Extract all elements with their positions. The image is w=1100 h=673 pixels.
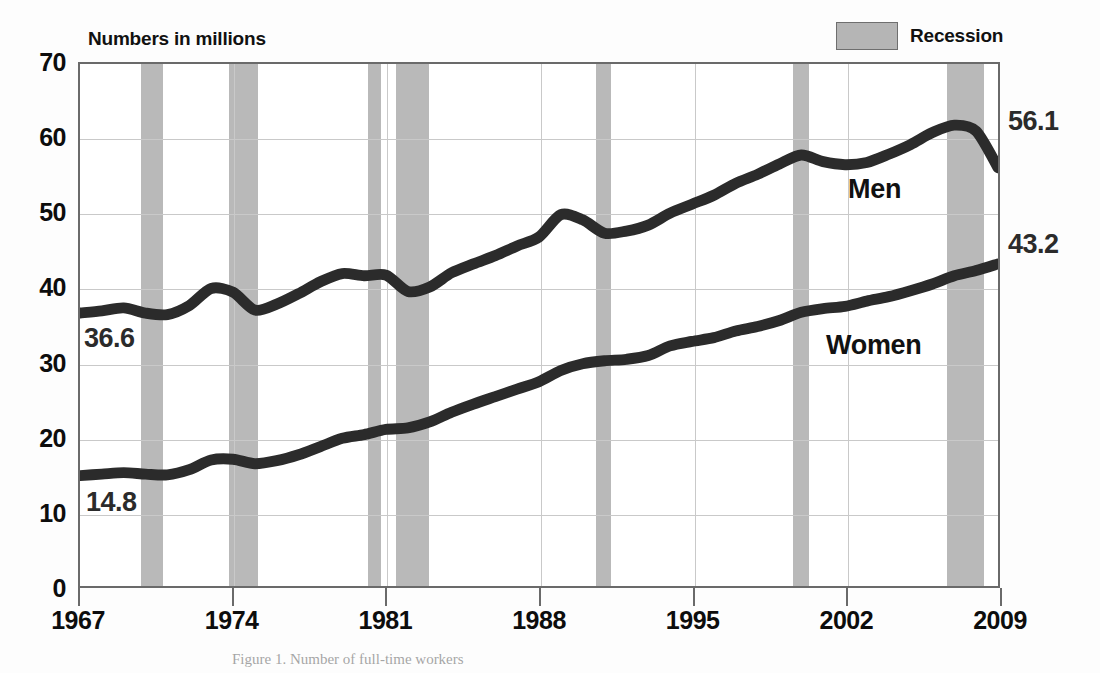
x-axis-tick-mark	[1000, 588, 1002, 606]
x-axis-tick-label: 2009	[973, 606, 1027, 635]
plot-area	[78, 62, 1000, 588]
x-axis-tick-label: 1967	[51, 606, 105, 635]
men-end-value-label: 56.1	[1008, 106, 1059, 137]
series-lines	[80, 64, 998, 586]
men-start-value-label: 36.6	[84, 323, 135, 354]
plot-inner	[80, 64, 998, 586]
x-axis-tick-mark	[232, 588, 234, 606]
y-axis-tick-label: 0	[6, 574, 66, 603]
y-axis: 010203040506070	[0, 62, 66, 588]
x-axis-tick-label: 1988	[512, 606, 566, 635]
series-label-men: Men	[848, 174, 901, 205]
series-line-women	[80, 264, 998, 476]
x-axis-tick-mark	[539, 588, 541, 606]
x-axis-tick-mark	[693, 588, 695, 606]
x-axis-tick-label: 2002	[820, 606, 874, 635]
chart-legend: Recession	[836, 22, 1003, 50]
x-axis-tick-mark	[385, 588, 387, 606]
chart-root: Numbers in millions Recession 0102030405…	[0, 0, 1100, 673]
recession-swatch-icon	[836, 22, 898, 50]
x-axis-tick-label: 1974	[205, 606, 259, 635]
figure-caption: Figure 1. Number of full-time workers	[232, 651, 464, 668]
y-axis-tick-label: 60	[6, 123, 66, 152]
y-axis-tick-label: 20	[6, 423, 66, 452]
x-axis-tick-label: 1995	[666, 606, 720, 635]
x-axis-tick-mark	[846, 588, 848, 606]
series-line-men	[80, 125, 998, 315]
women-end-value-label: 43.2	[1008, 229, 1059, 260]
y-axis-tick-label: 70	[6, 48, 66, 77]
y-axis-tick-label: 50	[6, 198, 66, 227]
series-label-women: Women	[826, 330, 922, 361]
x-axis-tick-label: 1981	[359, 606, 413, 635]
y-axis-tick-label: 30	[6, 348, 66, 377]
x-axis-tick-mark	[78, 588, 80, 606]
y-axis-tick-label: 40	[6, 273, 66, 302]
y-axis-tick-label: 10	[6, 498, 66, 527]
women-start-value-label: 14.8	[86, 487, 137, 518]
chart-title: Numbers in millions	[88, 28, 266, 50]
legend-label-recession: Recession	[910, 25, 1003, 47]
